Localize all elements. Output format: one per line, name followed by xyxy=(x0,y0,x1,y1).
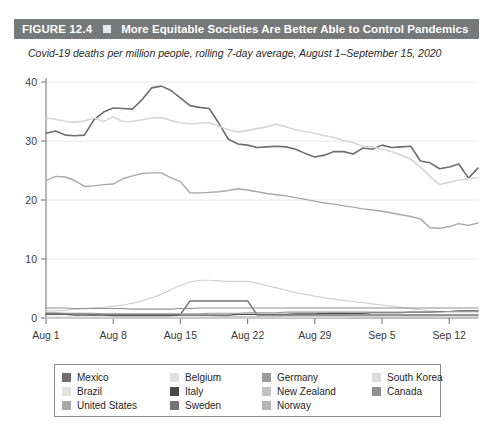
x-axis-tick-label: Aug 8 xyxy=(99,329,127,341)
x-axis-tick-label: Aug 15 xyxy=(164,329,197,341)
legend-label: Canada xyxy=(387,386,422,397)
legend-label: Italy xyxy=(185,386,203,397)
legend-swatch-icon xyxy=(170,373,179,382)
legend-label: Belgium xyxy=(185,372,221,383)
series-line-mexico xyxy=(46,86,478,178)
legend-label: New Zealand xyxy=(277,386,336,397)
legend-swatch-icon xyxy=(170,401,179,410)
legend-item-mexico[interactable]: Mexico xyxy=(62,372,170,383)
x-axis-tick-label: Aug 1 xyxy=(32,329,60,341)
figure-header: FIGURE 12.4 More Equitable Societies Are… xyxy=(14,19,479,39)
legend-label: Mexico xyxy=(77,372,109,383)
x-axis-tick-label: Sep 5 xyxy=(368,329,396,341)
figure-subtitle: Covid-19 deaths per million people, roll… xyxy=(28,47,441,59)
legend-item-norway[interactable]: Norway xyxy=(262,400,372,411)
legend-label: Germany xyxy=(277,372,318,383)
legend-swatch-icon xyxy=(62,387,71,396)
series-line-united-states xyxy=(46,173,478,228)
legend-item-united-states[interactable]: United States xyxy=(62,400,170,411)
legend-item-italy[interactable]: Italy xyxy=(170,386,262,397)
series-line-belgium xyxy=(46,280,478,312)
y-axis-tick-label: 10 xyxy=(25,253,37,265)
legend-item-sweden[interactable]: Sweden xyxy=(170,400,262,411)
figure-container: FIGURE 12.4 More Equitable Societies Are… xyxy=(0,0,493,444)
figure-title: More Equitable Societies Are Better Able… xyxy=(121,23,468,35)
legend-item-new-zealand[interactable]: New Zealand xyxy=(262,386,372,397)
square-bullet-icon xyxy=(103,25,111,33)
legend-swatch-icon xyxy=(372,373,381,382)
legend-label: Sweden xyxy=(185,400,221,411)
y-axis-tick-label: 20 xyxy=(25,194,37,206)
chart-plot-area: 010203040Aug 1Aug 8Aug 15Aug 22Aug 29Sep… xyxy=(0,70,493,355)
y-axis-tick-label: 30 xyxy=(25,135,37,147)
chart-legend: MexicoBelgiumGermanySouth KoreaBrazilIta… xyxy=(54,364,441,417)
legend-item-canada[interactable]: Canada xyxy=(372,386,449,397)
legend-swatch-icon xyxy=(170,387,179,396)
legend-swatch-icon xyxy=(62,373,71,382)
legend-label: Norway xyxy=(277,400,311,411)
legend-item-south-korea[interactable]: South Korea xyxy=(372,372,449,383)
legend-swatch-icon xyxy=(372,387,381,396)
legend-swatch-icon xyxy=(262,387,271,396)
figure-number: FIGURE 12.4 xyxy=(22,23,92,35)
x-axis-tick-label: Aug 29 xyxy=(298,329,331,341)
legend-item-germany[interactable]: Germany xyxy=(262,372,372,383)
legend-swatch-icon xyxy=(262,401,271,410)
x-axis-tick-label: Aug 22 xyxy=(231,329,264,341)
legend-swatch-icon xyxy=(62,401,71,410)
line-chart-svg: 010203040Aug 1Aug 8Aug 15Aug 22Aug 29Sep… xyxy=(0,70,493,355)
y-axis-tick-label: 40 xyxy=(25,76,37,88)
x-axis-tick-label: Sep 12 xyxy=(433,329,466,341)
legend-item-brazil[interactable]: Brazil xyxy=(62,386,170,397)
legend-item-belgium[interactable]: Belgium xyxy=(170,372,262,383)
legend-label: South Korea xyxy=(387,372,443,383)
legend-label: United States xyxy=(77,400,137,411)
y-axis-tick-label: 0 xyxy=(31,312,37,324)
legend-label: Brazil xyxy=(77,386,102,397)
legend-swatch-icon xyxy=(262,373,271,382)
